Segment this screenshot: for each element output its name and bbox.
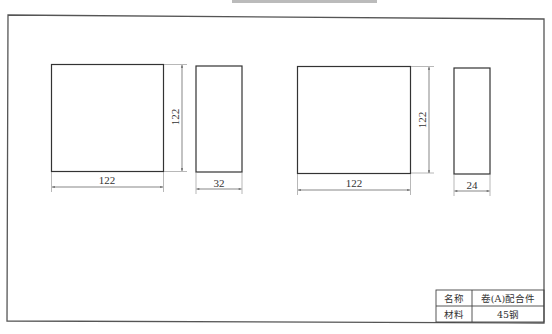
title-block-material-value: 45钢 — [497, 309, 519, 320]
part-1-thickness-dimension: 32 — [214, 177, 225, 189]
part-2-height-dimension: 122 — [416, 112, 428, 129]
part-1-front-view: 122 122 — [52, 65, 188, 193]
cropped-header-text — [232, 0, 377, 3]
part-2-width-dimension: 122 — [346, 177, 363, 189]
title-block-name-label: 名称 — [444, 293, 464, 304]
title-block-material-label: 材料 — [444, 309, 464, 320]
title-block-name-value: 卷(A)配合件 — [481, 293, 535, 304]
technical-drawing: 122 122 32 122 122 24 名称 — [0, 0, 552, 334]
part-1-width-dimension: 122 — [99, 174, 116, 186]
drawing-frame — [7, 15, 544, 323]
part-1-side-view: 32 — [196, 66, 242, 194]
title-block: 名称 卷(A)配合件 材料 45钢 — [436, 290, 544, 322]
part-2-front-view: 122 122 — [298, 67, 435, 196]
part-2-thickness-dimension: 24 — [467, 179, 479, 191]
part-1-height-dimension: 122 — [169, 109, 181, 126]
part-2-side-view: 24 — [454, 68, 490, 196]
